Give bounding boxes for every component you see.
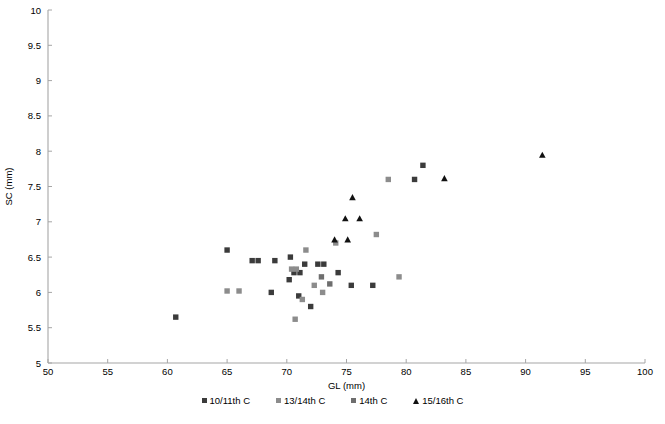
- legend-triangle-icon: [413, 398, 419, 404]
- axis-ticks: [48, 10, 645, 363]
- x-tick-label: 65: [222, 366, 233, 377]
- data-point-square: [272, 258, 277, 263]
- y-tick-label: 9.5: [28, 40, 41, 51]
- data-point-square: [320, 290, 325, 295]
- data-point-square: [289, 266, 294, 271]
- x-tick-label: 95: [580, 366, 591, 377]
- chart-legend: 10/11th C13/14th C14th C15/16th C: [0, 396, 665, 406]
- data-point-triangle: [342, 215, 349, 221]
- data-point-square: [255, 258, 260, 263]
- series-10-11th-c: [173, 163, 426, 320]
- data-point-square: [321, 261, 326, 266]
- legend-square-icon: [202, 398, 207, 403]
- y-tick-label: 5.5: [28, 322, 41, 333]
- legend-label: 13/14th C: [284, 396, 325, 406]
- data-point-square: [349, 283, 354, 288]
- data-point-triangle: [356, 215, 363, 221]
- data-point-triangle: [344, 236, 351, 242]
- data-point-triangle: [539, 152, 546, 158]
- data-point-square: [288, 254, 293, 259]
- data-point-triangle: [331, 236, 338, 242]
- data-point-square: [302, 261, 307, 266]
- data-point-square: [396, 274, 401, 279]
- y-tick-label: 9: [36, 75, 41, 86]
- legend-item-13-14th-c[interactable]: 13/14th C: [276, 396, 325, 406]
- data-point-square: [374, 232, 379, 237]
- data-point-square: [300, 297, 305, 302]
- x-tick-label: 75: [341, 366, 352, 377]
- data-point-square: [249, 258, 254, 263]
- data-point-square: [386, 177, 391, 182]
- data-point-square: [370, 283, 375, 288]
- x-tick-label: 70: [282, 366, 293, 377]
- y-tick-label: 8: [36, 146, 41, 157]
- y-tick-label: 7: [36, 216, 41, 227]
- data-point-square: [420, 163, 425, 168]
- x-tick-label: 90: [520, 366, 531, 377]
- y-tick-label: 10: [30, 5, 41, 16]
- plot-area: 5055606570758085909510055.566.577.588.59…: [0, 0, 665, 424]
- x-tick-label: 60: [162, 366, 173, 377]
- data-point-triangle: [349, 194, 356, 200]
- data-point-square: [327, 281, 332, 286]
- x-tick-label: 85: [461, 366, 472, 377]
- data-point-square: [224, 288, 229, 293]
- y-tick-label: 7.5: [28, 181, 41, 192]
- y-axis-title: SC (mm): [3, 168, 14, 206]
- legend-square-icon: [351, 398, 356, 403]
- series-13-14th-c: [224, 177, 401, 322]
- x-axis-title: GL (mm): [328, 380, 365, 391]
- legend-label: 15/16th C: [422, 396, 463, 406]
- data-point-square: [224, 247, 229, 252]
- legend-item-15-16th-c[interactable]: 15/16th C: [413, 396, 463, 406]
- data-point-square: [335, 270, 340, 275]
- data-points: [173, 152, 546, 322]
- data-point-square: [269, 290, 274, 295]
- data-point-square: [294, 266, 299, 271]
- x-tick-label: 55: [102, 366, 113, 377]
- legend-item-14th-c[interactable]: 14th C: [351, 396, 387, 406]
- data-point-square: [308, 304, 313, 309]
- y-tick-label: 5: [36, 358, 41, 369]
- data-point-square: [303, 247, 308, 252]
- axis-tick-labels: 5055606570758085909510055.566.577.588.59…: [28, 5, 653, 378]
- data-point-square: [312, 283, 317, 288]
- data-point-square: [412, 177, 417, 182]
- data-point-square: [173, 314, 178, 319]
- data-point-square: [236, 288, 241, 293]
- data-point-triangle: [441, 175, 448, 181]
- y-tick-label: 6.5: [28, 252, 41, 263]
- x-tick-label: 80: [401, 366, 412, 377]
- scatter-chart: 5055606570758085909510055.566.577.588.59…: [0, 0, 665, 424]
- legend-label: 14th C: [359, 396, 387, 406]
- legend-item-10-11th-c[interactable]: 10/11th C: [202, 396, 251, 406]
- x-tick-label: 50: [43, 366, 54, 377]
- data-point-square: [286, 277, 291, 282]
- legend-label: 10/11th C: [210, 396, 251, 406]
- data-point-square: [292, 317, 297, 322]
- y-tick-label: 8.5: [28, 110, 41, 121]
- data-point-square: [315, 261, 320, 266]
- legend-square-icon: [276, 398, 281, 403]
- x-tick-label: 100: [637, 366, 653, 377]
- series-14th-c: [319, 274, 333, 286]
- axes: [48, 10, 645, 363]
- data-point-square: [319, 274, 324, 279]
- series-15-16th-c: [331, 152, 545, 243]
- y-tick-label: 6: [36, 287, 41, 298]
